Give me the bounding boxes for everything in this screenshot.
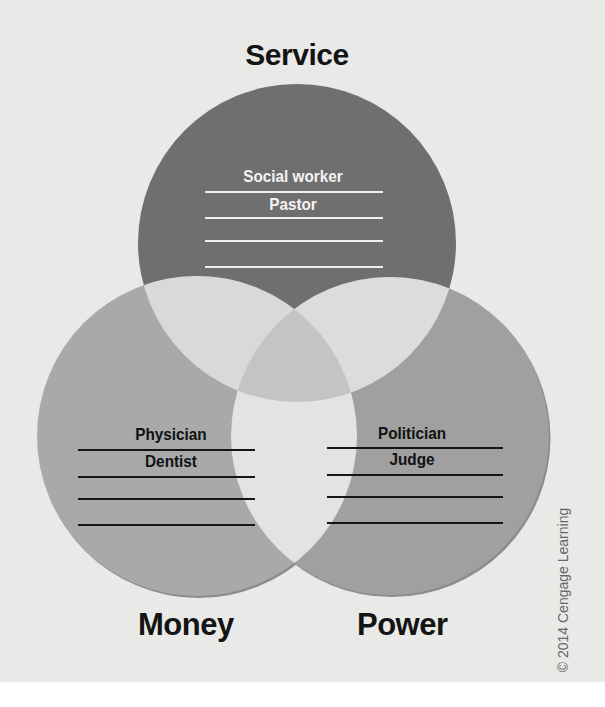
example-physician: Physician: [104, 425, 239, 445]
set-label-service: Service: [0, 38, 594, 72]
copyright-notice: © 2014 Cengage Learning: [555, 508, 571, 672]
set-label-money: Money: [138, 607, 234, 643]
example-social-worker: Social worker: [226, 167, 361, 187]
venn-diagram: [0, 0, 605, 682]
example-dentist: Dentist: [104, 452, 239, 472]
set-label-power: Power: [357, 607, 448, 643]
diagram-canvas: Service Money Power Social worker Pastor…: [0, 0, 605, 682]
example-politician: Politician: [345, 424, 480, 444]
example-pastor: Pastor: [226, 195, 361, 215]
example-judge: Judge: [345, 450, 480, 470]
